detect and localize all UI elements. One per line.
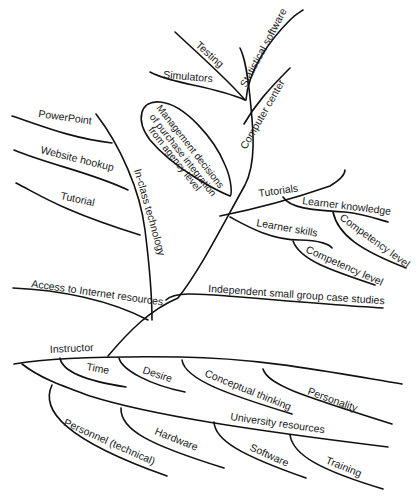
label-management-2: of purchase integration <box>147 111 218 198</box>
fishbone-diagram: Testing Statistical software Simulators … <box>0 0 418 499</box>
label-time: Time <box>86 360 111 376</box>
label-personnel: Personnel (technical) <box>62 416 157 467</box>
label-in-class-technology: In-class technology <box>132 167 169 257</box>
label-simulators: Simulators <box>163 68 213 84</box>
label-tutorials: Tutorials <box>258 182 299 199</box>
label-instructor: Instructor <box>49 341 94 355</box>
label-independent-group: Independent small group case studies <box>208 282 385 306</box>
label-hardware: Hardware <box>153 425 200 453</box>
label-competency-level-skills: Competency level <box>304 243 385 288</box>
tutorial-line <box>16 183 140 235</box>
label-tutorial: Tutorial <box>60 189 96 208</box>
label-access-internet: Access to Internet resources <box>31 277 164 307</box>
label-powerpoint: PowerPoint <box>38 107 93 126</box>
label-university-resources: University resources <box>230 410 326 435</box>
label-desire: Desire <box>141 363 174 384</box>
label-conceptual-thinking: Conceptual thinking <box>203 367 293 413</box>
label-learner-skills: Learner skills <box>256 216 319 239</box>
label-website-hookup: Website hookup <box>40 143 116 173</box>
